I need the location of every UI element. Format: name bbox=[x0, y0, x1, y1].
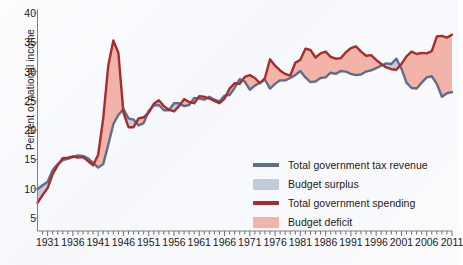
x-axis-tick-label: 1976 bbox=[263, 236, 286, 248]
x-axis-tick-labels: 1931193619411946195119561961196619711976… bbox=[0, 236, 459, 252]
x-axis-tick-label: 1961 bbox=[188, 236, 211, 248]
x-axis-tick-label: 2006 bbox=[415, 236, 438, 248]
x-axis-tick-label: 2011 bbox=[441, 236, 463, 248]
legend-label: Budget surplus bbox=[288, 178, 359, 190]
legend-item: Budget deficit bbox=[253, 213, 458, 231]
x-axis-tick-label: 1966 bbox=[213, 236, 236, 248]
legend-box-swatch bbox=[253, 179, 279, 190]
legend-item: Total government spending bbox=[253, 194, 458, 212]
x-axis-tick-label: 1946 bbox=[112, 236, 135, 248]
x-axis-tick-label: 1986 bbox=[314, 236, 337, 248]
x-axis-tick-label: 1936 bbox=[61, 236, 84, 248]
x-axis-tick-label: 1931 bbox=[36, 236, 59, 248]
legend-item: Total government tax revenue bbox=[253, 156, 458, 174]
chart-legend: Total government tax revenueBudget surpl… bbox=[253, 156, 458, 232]
x-axis-tick-label: 1941 bbox=[86, 236, 109, 248]
legend-line-swatch bbox=[253, 198, 279, 209]
x-axis-tick-label: 1956 bbox=[162, 236, 185, 248]
x-axis-tick-label: 1971 bbox=[238, 236, 261, 248]
legend-line-swatch bbox=[253, 160, 279, 171]
legend-label: Total government tax revenue bbox=[288, 159, 428, 171]
x-axis-tick-label: 1996 bbox=[364, 236, 387, 248]
x-axis-tick-label: 2001 bbox=[390, 236, 413, 248]
legend-item: Budget surplus bbox=[253, 175, 458, 193]
x-axis-tick-label: 1991 bbox=[339, 236, 362, 248]
x-axis-tick-label: 1951 bbox=[137, 236, 160, 248]
budget-deficit-area bbox=[400, 35, 452, 97]
legend-box-swatch bbox=[253, 217, 279, 228]
legend-label: Budget deficit bbox=[288, 216, 352, 228]
x-axis-tick-label: 1981 bbox=[289, 236, 312, 248]
legend-label: Total government spending bbox=[288, 197, 415, 209]
